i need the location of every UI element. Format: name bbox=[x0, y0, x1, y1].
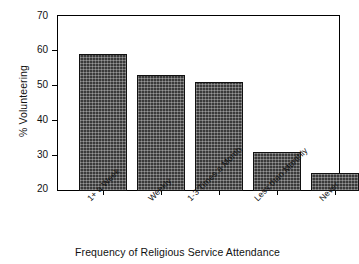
x-tick-mark-4 bbox=[277, 191, 278, 195]
y-tick-label-20: 20 bbox=[22, 184, 48, 194]
y-tick-label-30: 30 bbox=[22, 150, 48, 160]
y-tick-label-60: 60 bbox=[22, 45, 48, 55]
x-axis-title: Frequency of Religious Service Attendanc… bbox=[0, 246, 355, 258]
y-tick-label-70: 70 bbox=[22, 11, 48, 21]
y-axis-title: % Volunteering bbox=[17, 41, 29, 161]
x-tick-mark-3 bbox=[219, 191, 220, 195]
y-tick-label-40: 40 bbox=[22, 115, 48, 125]
y-tick-label-50: 50 bbox=[22, 80, 48, 90]
bar-weekly bbox=[137, 75, 185, 191]
